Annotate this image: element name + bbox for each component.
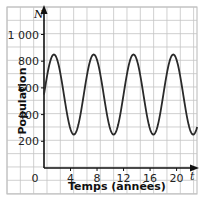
x-tick-label: 20 xyxy=(170,172,184,185)
population-chart: 2004006008001 000 048121620 Population T… xyxy=(0,0,203,197)
x-axis-name: t xyxy=(190,170,195,183)
y-tick-label: 1 000 xyxy=(8,29,40,42)
y-tick-label: 800 xyxy=(18,55,39,68)
y-axis-label: Population xyxy=(16,68,29,135)
y-tick-label: 200 xyxy=(18,135,39,148)
x-tick-label: 0 xyxy=(32,172,39,185)
x-axis-label: Temps (années) xyxy=(68,180,166,193)
y-axis-name: N xyxy=(33,8,44,21)
